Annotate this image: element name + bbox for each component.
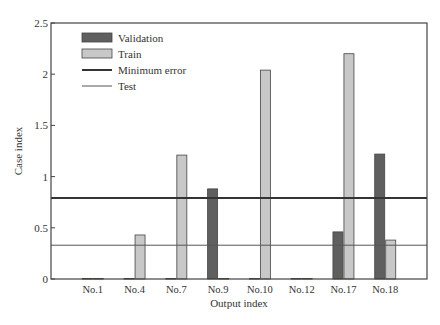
- x-tick-label: No.10: [247, 284, 273, 295]
- legend-item-validation: Validation: [82, 32, 164, 44]
- x-tick-label: No.18: [372, 284, 398, 295]
- bar-train-no18: [386, 240, 396, 279]
- legend-label: Validation: [118, 32, 164, 44]
- y-tick-label: 1.5: [34, 119, 48, 131]
- bar-validation-no17: [333, 232, 343, 279]
- legend-label: Train: [118, 48, 142, 60]
- y-axis-label: Case index: [12, 126, 24, 175]
- x-tick-label: No.12: [289, 284, 315, 295]
- bar-chart: 00.511.522.5 No.1No.4No.7No.9No.10No.12N…: [0, 0, 440, 325]
- x-axis-ticks: No.1No.4No.7No.9No.10No.12No.17No.18: [82, 284, 398, 295]
- y-tick-label: 0.5: [34, 222, 48, 234]
- bar-train-no7: [177, 155, 187, 279]
- x-tick-label: No.4: [124, 284, 145, 295]
- x-tick-label: No.7: [166, 284, 187, 295]
- plot-frame: [51, 23, 427, 279]
- y-tick-label: 0: [43, 273, 49, 285]
- x-axis-label: Output index: [210, 297, 268, 309]
- legend-item-train: Train: [82, 48, 142, 60]
- legend-item-test: Test: [82, 80, 136, 92]
- y-tick-label: 2: [43, 68, 49, 80]
- legend-label: Minimum error: [118, 64, 186, 76]
- legend-swatch: [82, 33, 112, 42]
- legend: ValidationTrainMinimum errorTest: [82, 32, 186, 92]
- y-tick-label: 1: [43, 171, 49, 183]
- y-tick-label: 2.5: [34, 17, 48, 29]
- reference-lines: [51, 198, 427, 245]
- x-tick-label: No.17: [330, 284, 356, 295]
- legend-swatch: [82, 49, 112, 58]
- legend-item-minimum-error: Minimum error: [82, 64, 186, 76]
- bar-train-no10: [260, 70, 270, 279]
- bar-validation-no9: [208, 189, 218, 279]
- bar-validation-no18: [375, 154, 385, 279]
- x-tick-label: No.1: [82, 284, 103, 295]
- x-tick-label: No.9: [208, 284, 229, 295]
- bar-train-no4: [135, 235, 145, 279]
- legend-label: Test: [118, 80, 136, 92]
